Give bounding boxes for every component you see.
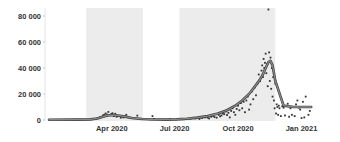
data-point xyxy=(301,117,303,119)
data-point xyxy=(294,115,296,117)
data-point xyxy=(244,111,246,113)
data-point xyxy=(309,110,311,112)
y-tick-label: 60 000 xyxy=(18,38,41,47)
data-point xyxy=(236,108,238,110)
data-point xyxy=(308,114,310,116)
x-tick-label: Jan 2021 xyxy=(286,124,318,133)
data-point xyxy=(268,52,270,54)
data-point xyxy=(288,116,290,118)
data-point xyxy=(208,118,210,120)
data-point xyxy=(303,117,305,119)
data-point xyxy=(245,100,247,102)
data-point xyxy=(107,111,109,113)
data-point xyxy=(284,115,286,117)
data-point xyxy=(295,104,297,106)
data-point xyxy=(270,57,272,59)
data-point xyxy=(277,114,279,116)
shaded-period-2 xyxy=(179,8,275,121)
data-point xyxy=(248,109,250,111)
shaded-period-1 xyxy=(86,8,143,121)
y-tick-label: 0 xyxy=(37,116,41,125)
data-point xyxy=(226,114,228,116)
data-point xyxy=(278,105,280,107)
data-point xyxy=(214,116,216,118)
data-point xyxy=(279,107,281,109)
y-tick-label: 40 000 xyxy=(18,64,41,73)
chart: 020 00040 00060 00080 000 Apr 2020Jul 20… xyxy=(0,0,340,142)
data-point xyxy=(268,9,270,11)
x-axis: Apr 2020Jul 2020Oct 2020Jan 2021 xyxy=(96,124,317,133)
data-point xyxy=(305,96,307,98)
y-tick-label: 20 000 xyxy=(18,90,41,99)
x-tick-label: Jul 2020 xyxy=(160,124,190,133)
y-tick-label: 80 000 xyxy=(18,12,41,21)
data-point xyxy=(302,101,304,103)
data-point xyxy=(276,104,278,106)
data-point xyxy=(280,115,282,117)
data-point xyxy=(223,113,225,115)
data-point xyxy=(270,88,272,90)
data-point xyxy=(250,104,252,106)
data-point xyxy=(265,53,267,55)
data-point xyxy=(267,85,269,87)
data-point xyxy=(297,100,299,102)
data-point xyxy=(263,58,265,60)
data-point xyxy=(299,109,301,111)
data-point xyxy=(216,117,218,119)
data-point xyxy=(274,107,276,109)
y-axis: 020 00040 00060 00080 000 xyxy=(18,8,45,125)
data-point xyxy=(264,62,266,64)
data-point xyxy=(229,117,231,119)
data-point xyxy=(261,70,263,72)
data-point xyxy=(261,65,263,67)
data-point xyxy=(233,111,235,113)
data-point xyxy=(291,114,293,116)
data-point xyxy=(258,74,260,76)
data-point xyxy=(255,94,257,96)
data-point xyxy=(239,109,241,111)
data-point xyxy=(252,98,254,100)
x-tick-label: Apr 2020 xyxy=(96,124,128,133)
x-tick-label: Oct 2020 xyxy=(222,124,253,133)
data-point xyxy=(265,72,267,74)
data-point xyxy=(234,114,236,116)
data-point xyxy=(125,114,127,116)
data-point xyxy=(230,110,232,112)
data-point xyxy=(136,115,138,117)
data-point xyxy=(287,103,289,105)
data-point xyxy=(273,100,275,102)
data-point xyxy=(221,115,223,117)
data-point xyxy=(272,96,274,98)
data-point xyxy=(228,112,230,114)
data-point xyxy=(241,107,243,109)
data-point xyxy=(152,115,154,117)
data-point xyxy=(269,80,271,82)
shaded-periods xyxy=(86,8,275,121)
data-point xyxy=(275,113,277,115)
